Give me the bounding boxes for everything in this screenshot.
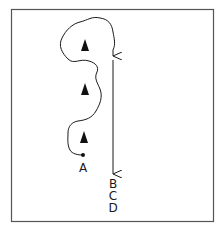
start-point-dot bbox=[81, 153, 85, 157]
cone-3-icon bbox=[80, 131, 88, 143]
end-label-d: D bbox=[108, 201, 117, 215]
diagram-canvas: A B C D bbox=[0, 0, 222, 229]
winding-path bbox=[60, 17, 114, 155]
start-label: A bbox=[79, 161, 88, 175]
cone-2-icon bbox=[81, 83, 89, 95]
cone-1-icon bbox=[81, 39, 89, 51]
